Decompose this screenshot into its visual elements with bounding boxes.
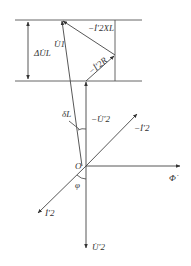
neg-i2-label: −İ′2: [134, 123, 150, 133]
flux-label: Φ̇: [169, 173, 179, 183]
phi-label: φ: [75, 180, 80, 190]
delta-ul-label: ΔU̇L: [33, 48, 51, 58]
delta-l-leader: [69, 121, 79, 129]
i2-xl-label: −İ′2XL: [88, 23, 114, 33]
origin-label: O: [75, 161, 82, 171]
neg-u2-label: −U̇′2: [91, 114, 111, 124]
delta-l-label: δL: [62, 109, 71, 119]
i2-label: İ′2: [44, 208, 55, 218]
u2-label: U̇′2: [92, 242, 105, 252]
delta-l-arc: [78, 129, 86, 130]
i2-r-label: −İ′2R: [86, 55, 109, 77]
phi-arc: [77, 175, 86, 179]
u1-label: U̇1: [54, 39, 65, 49]
u1-vector: [62, 21, 82, 166]
phasor-diagram: ΔU̇L U̇1 −İ′2XL −İ′2R −U̇′2 δL −İ′2 İ′2 …: [0, 0, 191, 266]
